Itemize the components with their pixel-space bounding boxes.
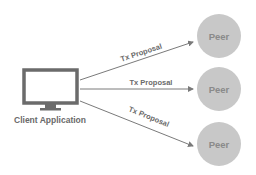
arrow-3: Tx Proposal [80,101,193,146]
client-node: Client Application [14,70,86,125]
arrow-label: Tx Proposal [119,42,163,64]
arrow-1: Tx Proposal [80,42,193,80]
peer-label: Peer [209,31,230,42]
diagram-canvas: Client Application Tx Proposal Tx Propos… [0,0,256,175]
peer-node-2: Peer [197,67,241,111]
client-label: Client Application [14,115,86,125]
arrow-2: Tx Proposal [80,78,193,89]
peer-node-1: Peer [197,14,241,58]
arrow-label: Tx Proposal [130,78,173,87]
peer-label: Peer [209,139,230,150]
arrow-label: Tx Proposal [127,104,170,128]
peer-label: Peer [209,84,230,95]
peer-node-3: Peer [197,122,241,166]
monitor-icon [24,70,77,111]
